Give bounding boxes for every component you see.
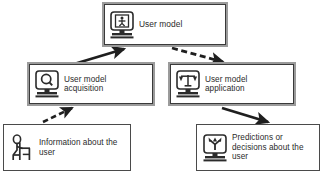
node-user-model-application[interactable]: User model application — [168, 62, 296, 106]
monitor-magnifier-icon — [34, 69, 60, 99]
diagram-canvas: User model User model acquisition User m… — [0, 0, 324, 177]
node-predictions-about-user[interactable]: Predictions or decisions about the user — [196, 124, 320, 171]
node-acquisition-label: User model acquisition — [64, 75, 153, 94]
edge-information-to-acquisition — [43, 108, 72, 122]
edge-application-to-predictions — [222, 108, 268, 122]
node-predictions-label: Predictions or decisions about the user — [232, 133, 319, 161]
person-at-desk-icon — [9, 133, 35, 163]
node-user-model[interactable]: User model — [102, 2, 228, 47]
node-user-model-label: User model — [139, 20, 226, 29]
monitor-branching-arrow-icon — [202, 133, 228, 163]
node-information-label: Information about the user — [39, 138, 130, 157]
monitor-scales-icon — [175, 69, 201, 99]
node-application-label: User model application — [205, 75, 294, 94]
node-user-model-acquisition[interactable]: User model acquisition — [27, 62, 155, 106]
monitor-person-icon — [109, 10, 135, 40]
edge-user-model-to-application — [172, 48, 223, 62]
node-information-about-user[interactable]: Information about the user — [3, 124, 131, 171]
